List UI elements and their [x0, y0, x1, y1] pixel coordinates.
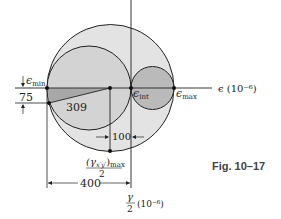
- mohr-circle-diagram: ϵmin 75 309 ϵint ϵmax ϵ (10⁻⁶) 100 (γx′y…: [0, 0, 281, 219]
- label-emin: ϵmin: [26, 74, 46, 88]
- label-emax: ϵmax: [176, 87, 197, 101]
- arrowhead-icon: [21, 104, 25, 108]
- label-309: 309: [66, 101, 87, 114]
- label-100: 100: [112, 131, 131, 142]
- label-400: 400: [80, 177, 101, 190]
- figure-caption: Fig. 10–17: [212, 160, 265, 172]
- label-gamma-axis-unit: (10⁻⁶): [137, 199, 164, 209]
- label-gamma-max: (γx′y′)max: [86, 156, 125, 169]
- label-epsilon-axis: ϵ (10⁻⁶): [218, 83, 257, 94]
- arrowhead-icon: [126, 181, 130, 185]
- point-strain-state: [47, 101, 51, 105]
- label-gamma-axis-den: 2: [127, 204, 133, 214]
- arrowhead-icon: [21, 83, 25, 87]
- label-gamma-axis-num: γ: [127, 191, 133, 202]
- arrowhead-icon: [48, 181, 52, 185]
- point-emin: [45, 86, 49, 90]
- point-gamma-max: [108, 149, 112, 153]
- point-center: [108, 86, 112, 90]
- label-75: 75: [19, 91, 33, 104]
